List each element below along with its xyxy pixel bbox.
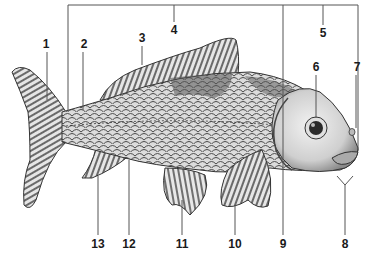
label-7: 7: [354, 61, 361, 73]
label-4: 4: [171, 24, 178, 36]
label-9: 9: [280, 238, 287, 250]
label-1: 1: [43, 38, 50, 50]
label-12: 12: [122, 238, 135, 250]
fish-illustration: [0, 0, 367, 257]
label-3: 3: [139, 32, 146, 44]
label-10: 10: [228, 238, 241, 250]
fish-anatomy-diagram: 1 2 3 4 5 6 7 8 9 10 11 12 13: [0, 0, 367, 257]
caudal-fin: [12, 67, 66, 207]
label-11: 11: [176, 238, 189, 250]
label-2: 2: [81, 38, 88, 50]
pelvic-fin: [164, 168, 207, 215]
leader-8: [337, 176, 353, 235]
label-8: 8: [342, 238, 349, 250]
label-13: 13: [91, 238, 104, 250]
label-5: 5: [320, 27, 327, 39]
nostril: [349, 129, 355, 136]
label-6: 6: [313, 61, 320, 73]
